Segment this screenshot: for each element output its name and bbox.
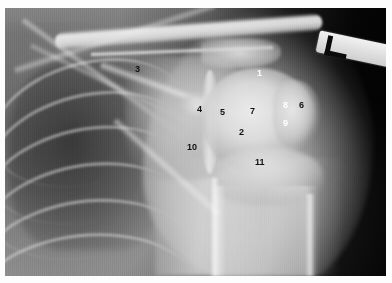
label-6: 6 [299,101,304,110]
letter-l-glyph [324,35,350,59]
rib-arc [5,146,205,276]
acromion-process [201,38,281,68]
label-8: 8 [283,101,288,110]
clavicle [54,12,323,51]
rib-arc [5,185,203,276]
label-9: 9 [283,119,288,128]
label-5: 5 [220,108,225,117]
oblique-line-middle [29,42,194,127]
oblique-line-superior [21,17,188,141]
scapular-lateral-border [112,117,222,217]
label-10: 10 [187,143,197,152]
glenoid-rim [201,70,219,174]
label-1: 1 [257,69,262,78]
scapula-body [125,56,253,180]
label-3: 3 [135,65,140,74]
surgical-neck [213,148,323,206]
rib-arc [5,37,200,208]
label-11: 11 [255,158,265,167]
chest-wall-layer [5,22,180,276]
lung-field-layer [9,60,159,250]
rib-arc [5,223,201,276]
left-side-marker [316,30,386,67]
label-2: 2 [239,128,244,137]
xray-image-frame: 1234567891011 [0,0,392,283]
humeral-shaft [213,186,319,276]
clavicle-inferior-cortex [91,45,273,57]
oblique-line-inferior [14,8,217,75]
label-7: 7 [250,107,255,116]
humeral-medial-cortex [210,178,219,276]
rib-arc [5,71,203,244]
radiograph-plate: 1234567891011 [5,8,386,276]
humeral-lateral-cortex [305,194,315,276]
upper-arm-soft-tissue [155,158,340,276]
rib-arc [5,107,204,276]
greater-tuberosity [273,80,321,146]
label-4: 4 [197,105,202,114]
